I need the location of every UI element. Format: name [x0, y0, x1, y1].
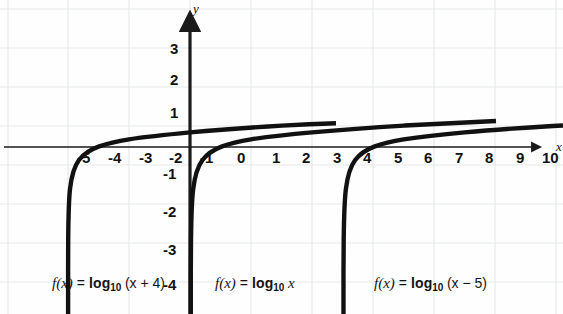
- curve-label-2-eq: =: [236, 275, 252, 291]
- curve-label-3-log: log: [411, 275, 432, 291]
- curve-label-3-eq: =: [395, 275, 411, 291]
- x-tick-8: 8: [485, 150, 493, 165]
- x-tick-6: 6: [424, 150, 432, 165]
- x-tick-3: 3: [333, 150, 341, 165]
- x-tick-4: 4: [363, 150, 371, 165]
- curve-label-1: f(x)=log10 (x + 4): [52, 276, 165, 291]
- curve-label-2-log: log: [252, 275, 273, 291]
- y-tick-1: 1: [170, 105, 178, 120]
- x-tick-5: 5: [394, 150, 402, 165]
- curve-label-1-base: 10: [110, 282, 121, 293]
- curve-label-2: f(x)=log10 x: [215, 276, 295, 291]
- curve-label-1-fn: f(x): [52, 275, 73, 291]
- x-axis-label: x: [556, 140, 562, 153]
- curve-label-2-arg: x: [288, 275, 295, 291]
- x-tick--2: -2: [169, 150, 182, 165]
- y-tick--2: -2: [163, 204, 176, 219]
- x-tick--3: -3: [139, 150, 152, 165]
- x-tick-7: 7: [455, 150, 463, 165]
- x-tick--5: -5: [77, 150, 90, 165]
- curve-label-2-fn: f(x): [215, 275, 236, 291]
- curve-label-2-base: 10: [273, 282, 284, 293]
- log-function-graph-figure: -5 -4 -3 -2 -1 0 1 2 3 4 5 6 7 8 9 10 3 …: [0, 0, 563, 314]
- curve-label-3-fn: f(x): [374, 275, 395, 291]
- x-tick-0: 0: [237, 150, 245, 165]
- x-tick--1: -1: [200, 150, 213, 165]
- y-tick--1: -1: [163, 166, 176, 181]
- x-tick-1: 1: [272, 150, 280, 165]
- curve-label-3-arg: (x − 5): [447, 275, 487, 291]
- x-tick-2: 2: [302, 150, 310, 165]
- x-tick--4: -4: [108, 150, 121, 165]
- curve-label-3: f(x)=log10 (x − 5): [374, 276, 487, 291]
- y-tick-3: 3: [170, 41, 178, 56]
- y-tick-2: 2: [170, 72, 178, 87]
- y-tick--3: -3: [163, 242, 176, 257]
- y-axis-label: y: [193, 2, 199, 15]
- curve-label-1-eq: =: [73, 275, 89, 291]
- curve-label-1-log: log: [89, 275, 110, 291]
- curve-label-3-base: 10: [432, 282, 443, 293]
- curve-label-1-arg: (x + 4): [125, 275, 165, 291]
- x-tick-9: 9: [516, 150, 524, 165]
